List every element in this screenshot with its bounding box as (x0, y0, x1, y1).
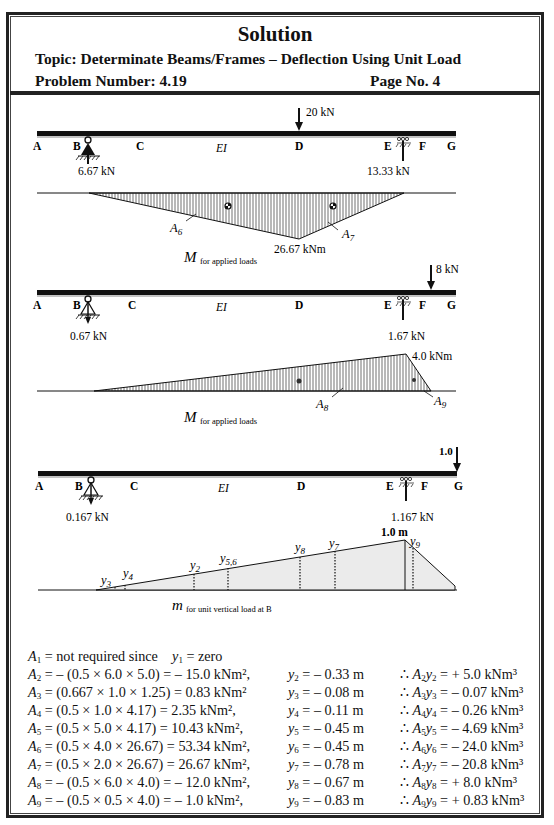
svg-text:D: D (295, 140, 303, 152)
figure-1-beam: 20 kN A B C D E F G EI 6.67 kN (33, 106, 456, 177)
svg-text:y3: y3 (99, 573, 112, 589)
svg-text:A: A (35, 480, 44, 492)
svg-text:F: F (421, 480, 428, 492)
svg-text:EI: EI (215, 142, 228, 154)
svg-text:C: C (128, 299, 136, 311)
svg-text:D: D (297, 480, 305, 492)
svg-text:B: B (73, 140, 81, 152)
svg-text:0.167 kN: 0.167 kN (66, 511, 110, 523)
svg-text:A: A (33, 140, 42, 152)
svg-text:1.167 kN: 1.167 kN (391, 511, 435, 523)
svg-text:8 kN: 8 kN (436, 263, 459, 275)
svg-text:A9: A9 (433, 394, 447, 410)
figure-3-beam: 1.0 A B C D E F G EI 0.167 kN 1.167 kN (35, 445, 463, 523)
svg-text:EI: EI (217, 482, 230, 494)
svg-text:6.67 kN: 6.67 kN (78, 165, 116, 177)
svg-text:F: F (419, 140, 426, 152)
svg-text:13.33 kN: 13.33 kN (367, 165, 411, 177)
svg-text:F: F (419, 299, 426, 311)
roller-support-icon (396, 137, 411, 161)
svg-text:for unit vertical load at B: for unit vertical load at B (186, 604, 272, 614)
svg-text:y8: y8 (293, 540, 306, 556)
figure-1-moment-diagram: A6 A7 26.67 kNm M for applied loads (37, 193, 456, 266)
svg-text:m: m (172, 597, 183, 613)
svg-text:EI: EI (215, 301, 228, 313)
svg-text:26.67 kNm: 26.67 kNm (274, 243, 326, 255)
svg-text:E: E (384, 299, 392, 311)
figure-3-unit-moment-diagram: y3 y4 y2 y5,6 y8 y7 y9 1.0 m m for unit … (38, 526, 457, 614)
svg-text:B: B (73, 299, 81, 311)
product-eq-9: ∴ A9y9 = + 0.83 kNm³ (400, 792, 524, 813)
svg-text:D: D (295, 299, 303, 311)
svg-text:y5,6: y5,6 (218, 551, 237, 567)
svg-text:A6: A6 (169, 221, 183, 237)
svg-text:C: C (136, 140, 144, 152)
svg-text:1.0 m: 1.0 m (381, 526, 408, 538)
svg-text:M: M (183, 249, 198, 265)
svg-text:A8: A8 (315, 397, 329, 413)
svg-text:E: E (386, 480, 394, 492)
svg-text:y4: y4 (121, 566, 134, 582)
svg-text:0.67 kN: 0.67 kN (70, 330, 108, 342)
svg-text:1.67 kN: 1.67 kN (388, 330, 426, 342)
roller-support-icon (396, 296, 411, 320)
svg-text:for applied loads: for applied loads (200, 416, 257, 426)
svg-text:M: M (183, 409, 198, 425)
ordinate-eq-9: y9 = – 0.83 m (288, 792, 364, 813)
load-label: 20 kN (306, 106, 335, 118)
svg-text:A: A (33, 299, 42, 311)
svg-text:for applied loads: for applied loads (200, 256, 257, 266)
svg-text:1.0: 1.0 (439, 445, 453, 457)
svg-text:4.0 kNm: 4.0 kNm (412, 350, 452, 362)
svg-text:A7: A7 (341, 227, 355, 243)
area-eq-9: A9 = – (0.5 × 0.5 × 4.0) = – 1.0 kNm², (28, 792, 243, 813)
svg-text:G: G (447, 299, 456, 311)
figure-2-beam: 8 kN A B C D E F G EI 0.67 kN 1.67 kN (33, 263, 459, 342)
svg-text:B: B (75, 480, 83, 492)
svg-text:y9: y9 (408, 534, 421, 550)
svg-text:C: C (130, 480, 138, 492)
figure-2-moment-diagram: A8 A9 4.0 kNm M for applied loads (37, 350, 456, 426)
svg-text:G: G (454, 480, 463, 492)
roller-support-icon (399, 477, 414, 501)
svg-text:G: G (447, 140, 456, 152)
svg-text:y7: y7 (327, 536, 340, 552)
svg-text:y2: y2 (188, 558, 201, 574)
svg-text:E: E (384, 140, 392, 152)
